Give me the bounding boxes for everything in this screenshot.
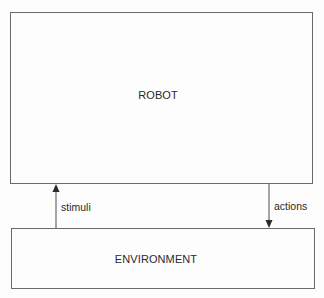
actions-label: actions bbox=[274, 200, 307, 212]
stimuli-label: stimuli bbox=[61, 201, 91, 213]
stimuli-arrow bbox=[53, 184, 60, 228]
robot-environment-diagram: ROBOT ENVIRONMENT stimuli actions bbox=[0, 0, 324, 298]
arrowhead-up-icon bbox=[53, 184, 60, 192]
actions-arrow bbox=[266, 184, 273, 228]
arrowhead-down-icon bbox=[266, 220, 273, 228]
arrows-layer bbox=[0, 0, 324, 298]
